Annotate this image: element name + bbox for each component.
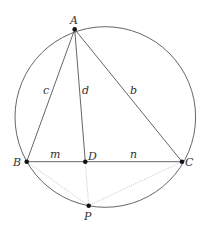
point-d <box>83 159 88 164</box>
circumcircle <box>15 27 196 208</box>
label-d: D <box>87 150 97 163</box>
segment-cp <box>89 162 182 206</box>
segment-dp <box>85 162 88 206</box>
point-b <box>24 159 29 164</box>
segment-bp <box>27 162 89 206</box>
label-b-side: b <box>130 84 137 97</box>
point-a <box>72 27 77 32</box>
label-n-segment: n <box>130 148 137 161</box>
point-p <box>86 203 91 208</box>
label-d-segment: d <box>82 84 89 97</box>
segment-ab <box>27 29 75 161</box>
label-a: A <box>69 14 78 27</box>
label-p: P <box>83 210 92 223</box>
label-c-side: c <box>43 84 49 97</box>
label-b: B <box>12 156 21 169</box>
geometry-diagram: A B C D P c d b m n <box>0 0 209 228</box>
label-m-segment: m <box>50 148 60 161</box>
label-c: C <box>185 156 194 169</box>
segment-ac <box>75 29 182 161</box>
point-c <box>180 159 185 164</box>
